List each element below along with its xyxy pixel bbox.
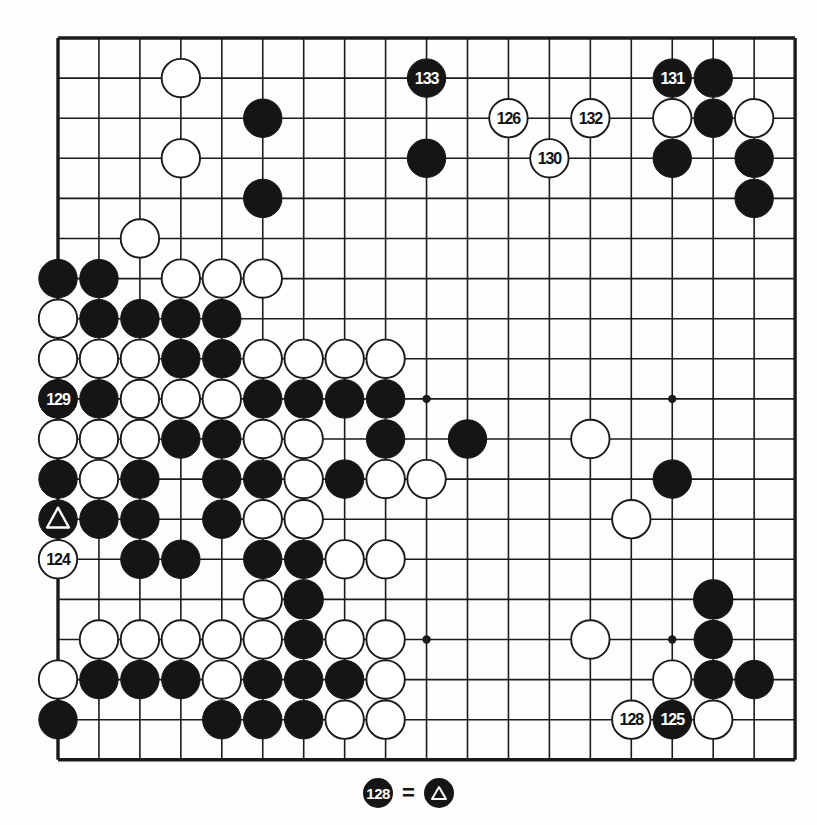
- black-stone[interactable]: [735, 139, 773, 177]
- black-stone[interactable]: [735, 179, 773, 217]
- white-stone[interactable]: [366, 620, 404, 658]
- move-stone-128[interactable]: 128: [612, 701, 650, 739]
- move-stone-130[interactable]: 130: [530, 139, 568, 177]
- move-stone-126[interactable]: 126: [489, 99, 527, 137]
- white-stone[interactable]: [571, 420, 609, 458]
- black-stone[interactable]: [448, 420, 486, 458]
- black-stone[interactable]: [80, 259, 118, 297]
- black-stone[interactable]: [80, 380, 118, 418]
- white-stone[interactable]: [653, 99, 691, 137]
- go-board[interactable]: 133126132130131129124128125: [0, 0, 817, 790]
- white-stone[interactable]: [244, 420, 282, 458]
- black-stone[interactable]: [80, 300, 118, 338]
- black-stone[interactable]: [244, 460, 282, 498]
- white-stone[interactable]: [325, 340, 363, 378]
- white-stone[interactable]: [162, 59, 200, 97]
- white-stone[interactable]: [80, 620, 118, 658]
- black-stone[interactable]: [244, 540, 282, 578]
- black-stone[interactable]: [244, 660, 282, 698]
- white-stone[interactable]: [407, 460, 445, 498]
- white-stone[interactable]: [121, 420, 159, 458]
- white-stone[interactable]: [366, 701, 404, 739]
- black-stone[interactable]: [735, 660, 773, 698]
- black-stone[interactable]: [162, 300, 200, 338]
- black-stone[interactable]: [694, 99, 732, 137]
- black-stone[interactable]: [407, 139, 445, 177]
- white-stone[interactable]: [162, 139, 200, 177]
- black-stone[interactable]: [285, 580, 323, 618]
- black-stone[interactable]: [39, 259, 77, 297]
- white-stone[interactable]: [39, 420, 77, 458]
- black-stone[interactable]: [366, 380, 404, 418]
- white-stone[interactable]: [244, 580, 282, 618]
- black-stone[interactable]: [121, 460, 159, 498]
- black-stone[interactable]: [121, 540, 159, 578]
- white-stone[interactable]: [612, 500, 650, 538]
- move-stone-125[interactable]: 125: [653, 701, 691, 739]
- white-stone[interactable]: [366, 660, 404, 698]
- white-stone[interactable]: [366, 460, 404, 498]
- white-stone[interactable]: [80, 340, 118, 378]
- black-stone[interactable]: [39, 460, 77, 498]
- black-stone[interactable]: [121, 300, 159, 338]
- white-stone[interactable]: [285, 340, 323, 378]
- black-stone[interactable]: [325, 660, 363, 698]
- black-stone[interactable]: [244, 380, 282, 418]
- black-stone[interactable]: [203, 500, 241, 538]
- black-stone[interactable]: [162, 340, 200, 378]
- black-stone[interactable]: [325, 460, 363, 498]
- white-stone[interactable]: [121, 219, 159, 257]
- black-stone[interactable]: [244, 99, 282, 137]
- white-stone[interactable]: [203, 660, 241, 698]
- white-stone[interactable]: [244, 620, 282, 658]
- black-stone[interactable]: [203, 460, 241, 498]
- white-stone[interactable]: [735, 99, 773, 137]
- white-stone[interactable]: [366, 540, 404, 578]
- black-stone[interactable]: [162, 540, 200, 578]
- black-stone[interactable]: [39, 701, 77, 739]
- black-stone[interactable]: [694, 59, 732, 97]
- black-stone[interactable]: [285, 620, 323, 658]
- move-stone-129[interactable]: 129: [39, 380, 77, 418]
- white-stone[interactable]: [203, 620, 241, 658]
- triangle-marked-black-stone[interactable]: [39, 500, 77, 538]
- white-stone[interactable]: [285, 500, 323, 538]
- black-stone[interactable]: [325, 380, 363, 418]
- black-stone[interactable]: [80, 660, 118, 698]
- move-stone-132[interactable]: 132: [571, 99, 609, 137]
- white-stone[interactable]: [121, 380, 159, 418]
- black-stone[interactable]: [203, 340, 241, 378]
- black-stone[interactable]: [694, 660, 732, 698]
- white-stone[interactable]: [285, 420, 323, 458]
- white-stone[interactable]: [162, 380, 200, 418]
- white-stone[interactable]: [571, 620, 609, 658]
- black-stone[interactable]: [285, 540, 323, 578]
- white-stone[interactable]: [80, 420, 118, 458]
- black-stone[interactable]: [162, 420, 200, 458]
- white-stone[interactable]: [121, 620, 159, 658]
- black-stone[interactable]: [285, 701, 323, 739]
- white-stone[interactable]: [694, 701, 732, 739]
- black-stone[interactable]: [244, 701, 282, 739]
- black-stone[interactable]: [121, 500, 159, 538]
- white-stone[interactable]: [39, 300, 77, 338]
- white-stone[interactable]: [203, 259, 241, 297]
- white-stone[interactable]: [162, 620, 200, 658]
- white-stone[interactable]: [80, 460, 118, 498]
- black-stone[interactable]: [285, 380, 323, 418]
- black-stone[interactable]: [121, 660, 159, 698]
- white-stone[interactable]: [325, 540, 363, 578]
- black-stone[interactable]: [203, 300, 241, 338]
- move-stone-133[interactable]: 133: [407, 59, 445, 97]
- black-stone[interactable]: [694, 580, 732, 618]
- white-stone[interactable]: [285, 460, 323, 498]
- black-stone[interactable]: [203, 420, 241, 458]
- black-stone[interactable]: [366, 420, 404, 458]
- black-stone[interactable]: [203, 701, 241, 739]
- white-stone[interactable]: [244, 340, 282, 378]
- white-stone[interactable]: [244, 500, 282, 538]
- white-stone[interactable]: [121, 340, 159, 378]
- move-stone-124[interactable]: 124: [39, 540, 77, 578]
- black-stone[interactable]: [80, 500, 118, 538]
- white-stone[interactable]: [244, 259, 282, 297]
